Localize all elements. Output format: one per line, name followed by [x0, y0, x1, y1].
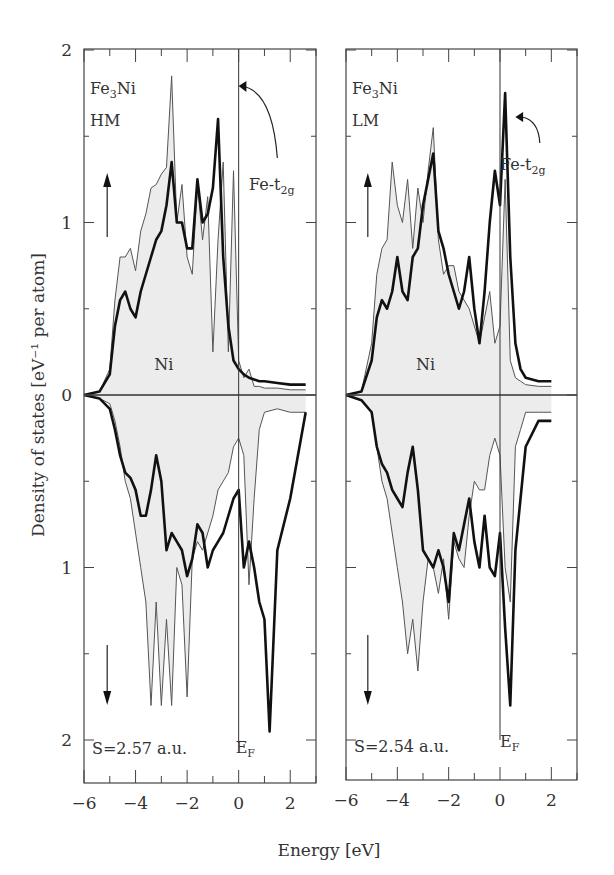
- x-tick-label: 0: [233, 793, 244, 813]
- y-axis-title: Density of states [eV⁻¹ per atom]: [28, 253, 48, 537]
- x-tick-label: 0: [495, 790, 506, 810]
- y-tick-label: 2: [61, 730, 72, 750]
- spin-down-arrow-icon: [103, 691, 111, 705]
- x-axis-title: Energy [eV]: [277, 840, 380, 860]
- fe-t2g-arrow-head: [239, 81, 247, 92]
- fe-t2g-arrow-curve: [522, 117, 540, 143]
- x-tick-label: 2: [285, 793, 296, 813]
- fe-t2g-label: Fe-t2g: [249, 175, 295, 197]
- x-tick-label: −6: [333, 790, 358, 810]
- ni-fill-area-2: [346, 395, 551, 671]
- x-tick-label: −2: [436, 790, 461, 810]
- panel-hm: −6−4−20221012Fe3NiHMNiFe-t2gS=2.57 a.u.E…: [61, 40, 316, 813]
- compound-label: Fe3Ni: [352, 79, 398, 101]
- magnetic-state-label: LM: [352, 111, 379, 130]
- y-tick-label: 1: [61, 213, 72, 233]
- ni-label: Ni: [154, 355, 173, 374]
- wigner-seitz-radius-label: S=2.57 a.u.: [92, 739, 187, 758]
- dos-chart: −6−4−20221012Fe3NiHMNiFe-t2gS=2.57 a.u.E…: [0, 0, 614, 875]
- magnetic-state-label: HM: [90, 111, 120, 130]
- panel-lm: −6−4−202Fe3NiLMNiFe-t2gS=2.54 a.u.EF: [333, 49, 577, 810]
- spin-up-arrow-icon: [103, 173, 111, 187]
- y-tick-label: 0: [61, 385, 72, 405]
- x-tick-label: −4: [385, 790, 410, 810]
- y-tick-label: 2: [61, 40, 72, 60]
- spin-down-arrow-icon: [364, 691, 372, 705]
- compound-label: Fe3Ni: [90, 79, 136, 101]
- y-tick-label: 1: [61, 558, 72, 578]
- x-tick-label: 2: [546, 790, 557, 810]
- wigner-seitz-radius-label: S=2.54 a.u.: [354, 737, 449, 756]
- spin-up-arrow-icon: [364, 173, 372, 187]
- fermi-energy-label: EF: [236, 738, 256, 760]
- fe-t2g-label: Fe-t2g: [500, 155, 546, 177]
- ni-label: Ni: [416, 355, 435, 374]
- fe-t2g-arrow-head: [515, 112, 523, 122]
- x-tick-label: −4: [123, 793, 148, 813]
- fermi-energy-label: EF: [500, 732, 520, 754]
- x-tick-label: −6: [71, 793, 96, 813]
- fe-t2g-arrow-curve: [241, 86, 277, 158]
- x-tick-label: −2: [175, 793, 200, 813]
